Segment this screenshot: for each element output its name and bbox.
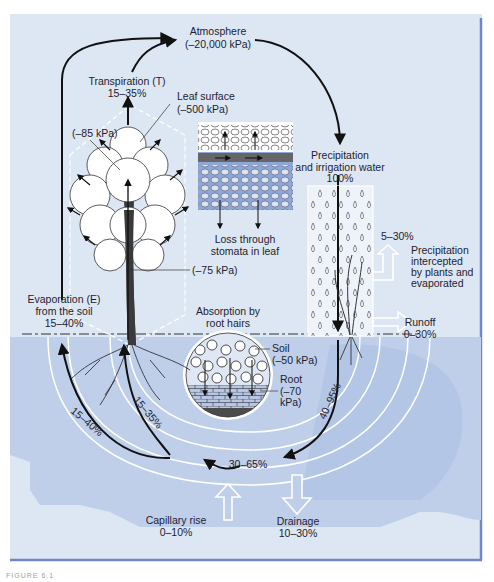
drainage-percent: 10–30% [279,527,318,539]
leaf-inset-caption-line1: Loss through [215,233,276,245]
transpiration-percent: 15–35% [108,87,147,99]
soil-label: Soil [272,342,290,354]
leaf-surface-label: Leaf surface [177,90,235,102]
interception-percent: 5–30% [381,230,414,242]
capillary-rise-label: Capillary rise [146,514,207,526]
absorption-line2: root hairs [206,317,250,329]
capillary-rise-percent: 0–10% [160,526,193,538]
evaporation-percent: 15–40% [45,317,84,329]
atmosphere-potential: (–20,000 kPa) [185,38,251,50]
runoff-label: Runoff [405,316,436,328]
interception-line4: evaporated [411,277,464,289]
atmosphere-label: Atmosphere [190,25,247,37]
drainage-label: Drainage [277,515,320,527]
soil-potential: (–50 kPa) [272,354,318,366]
soil-water-percent: 30–65% [229,458,268,470]
leaf-surface-potential: (–500 kPa) [177,103,228,115]
precipitation-label-line1: Precipitation [311,149,369,161]
figure-caption: FIGURE 6.1 [6,572,54,579]
evaporation-line1: Evaporation (E) [28,293,101,305]
precipitation-percent: 100% [327,172,354,184]
leaf-inset-caption-line2: stomata in leaf [211,245,279,257]
transpiration-label: Transpiration (T) [88,75,165,87]
stem-potential: (–75 kPa) [192,264,238,276]
evaporation-line2: from the soil [35,305,92,317]
root-potential-line2: kPa) [280,396,302,408]
root-label: Root [280,373,302,385]
runoff-percent: 0–30% [404,328,437,340]
hydrologic-cycle-diagram: Atmosphere (–20,000 kPa) Transpiration (… [0,0,494,582]
leaf-inner-potential: (–85 kPa) [72,127,118,139]
absorption-line1: Absorption by [196,305,261,317]
